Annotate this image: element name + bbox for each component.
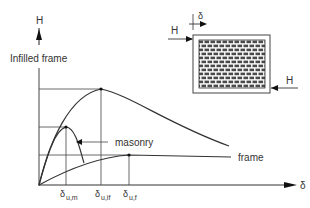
diagram-canvas: H Infilled frame δ masonry frame δ u,m δ… xyxy=(0,0,310,208)
load-bottom-arrow-icon xyxy=(271,85,278,91)
load-top-arrow-icon xyxy=(186,36,193,42)
svg-text:u,f: u,f xyxy=(129,194,137,201)
frame-label: frame xyxy=(238,152,264,163)
masonry-curve xyxy=(39,127,84,185)
y-axis-arrow-icon xyxy=(36,29,42,40)
infilled-frame-inset xyxy=(168,14,298,93)
svg-text:u,m: u,m xyxy=(66,194,78,201)
svg-text:u,if: u,if xyxy=(101,194,110,201)
svg-text:δ: δ xyxy=(123,189,128,199)
masonry-infill xyxy=(199,40,265,88)
svg-text:δ: δ xyxy=(60,189,65,199)
svg-text:δ: δ xyxy=(95,189,100,199)
y-axis xyxy=(36,28,42,186)
x-axis-arrow-icon xyxy=(284,182,297,188)
x-tick-uif: δ u,if xyxy=(95,189,110,201)
frame-curve xyxy=(39,155,231,185)
inset-displacement-label: δ xyxy=(198,11,203,21)
x-axis xyxy=(39,182,297,188)
frame-peak-point xyxy=(127,153,130,156)
x-tick-uf: δ u,f xyxy=(123,189,137,201)
displacement-arrow-icon xyxy=(200,21,207,27)
inset-load-bottom-label: H xyxy=(286,75,293,86)
masonry-label: masonry xyxy=(115,137,153,148)
infilled-peak-point xyxy=(99,87,102,90)
masonry-peak-point xyxy=(64,125,67,128)
x-axis-label: δ xyxy=(300,180,306,191)
x-tick-um: δ u,m xyxy=(60,189,78,201)
inset-load-top-label: H xyxy=(171,25,178,36)
y-axis-label: H xyxy=(36,15,43,26)
infilled-frame-label: Infilled frame xyxy=(10,53,68,64)
